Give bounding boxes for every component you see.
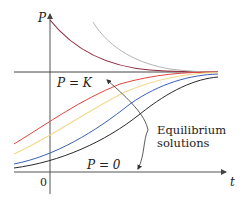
annotation-leader-lower [138,130,148,169]
origin-label: 0 [40,176,47,189]
curve-above-k-gray [93,22,218,72]
t-axis-label: t [230,175,235,189]
annotation-text-line2: solutions [157,136,210,150]
annotation-leader-upper [107,80,148,130]
logistic-solutions-diagram: P t 0 P = K P = 0 Equilibrium solutions [0,0,248,200]
equilibrium-label-zero: P = 0 [86,158,121,172]
p-axis-label: P [37,11,47,25]
equilibrium-label-k: P = K [56,76,93,90]
annotation-text-line1: Equilibrium [157,123,226,137]
curve-above-k-dark-red [50,20,218,72]
